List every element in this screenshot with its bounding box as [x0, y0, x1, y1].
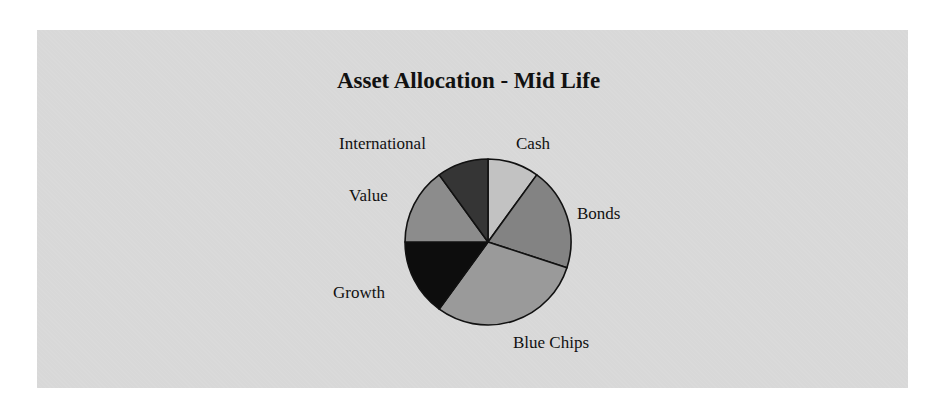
label-bonds: Bonds	[577, 204, 620, 224]
label-blue-chips: Blue Chips	[513, 333, 589, 353]
label-international: International	[339, 134, 426, 154]
pie-chart	[0, 0, 937, 414]
label-growth: Growth	[333, 283, 385, 303]
label-value: Value	[349, 186, 388, 206]
label-cash: Cash	[516, 134, 550, 154]
